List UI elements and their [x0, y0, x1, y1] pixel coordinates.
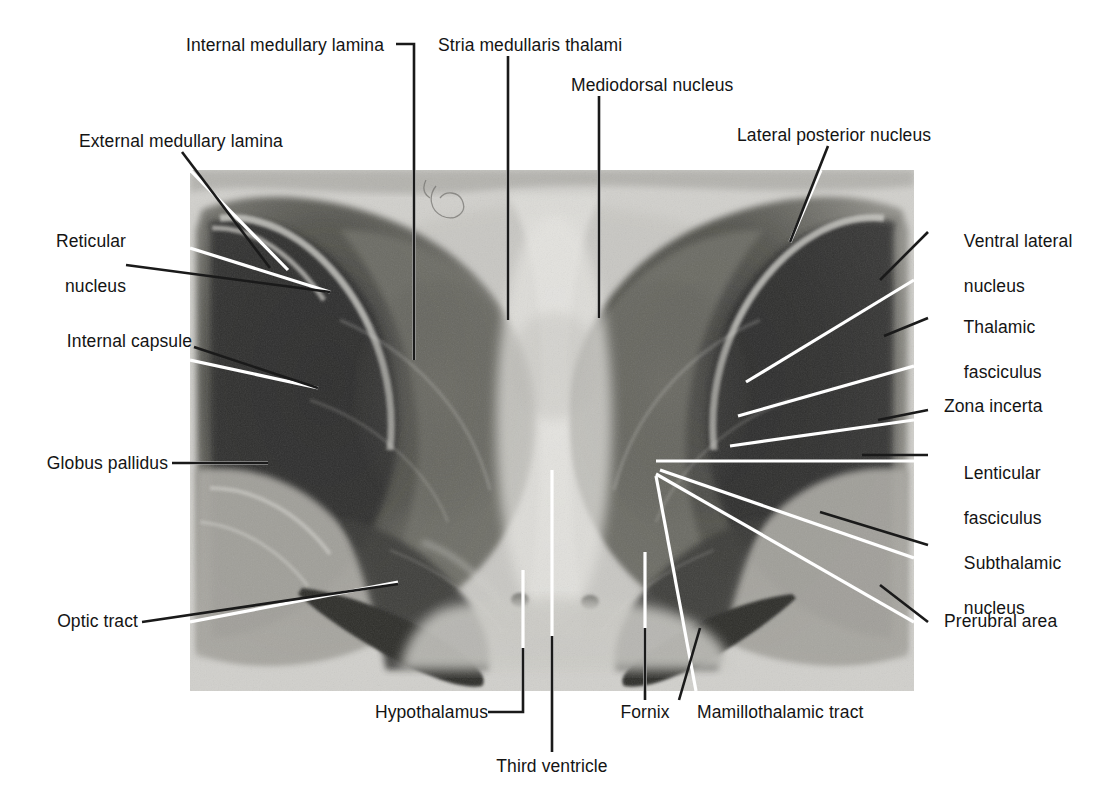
label-hypothalamus: Hypothalamus: [352, 701, 488, 723]
label-fornix: Fornix: [608, 701, 682, 723]
label-zona-incerta: Zona incerta: [944, 395, 1042, 417]
label-thalamic-fasciculus-line2: fasciculus: [964, 362, 1042, 382]
label-internal-capsule: Internal capsule: [0, 330, 192, 352]
label-subthalamic-nucleus-line1: Subthalamic: [964, 553, 1061, 573]
label-internal-medullary-lamina: Internal medullary lamina: [0, 34, 384, 56]
label-globus-pallidus: Globus pallidus: [0, 452, 168, 474]
label-reticular-nucleus-line2: nucleus: [65, 276, 126, 296]
label-prerubral-area: Prerubral area: [944, 610, 1057, 632]
label-mediodorsal-nucleus: Mediodorsal nucleus: [571, 74, 733, 96]
label-lateral-posterior-nucleus: Lateral posterior nucleus: [737, 124, 931, 146]
brain-section-photograph: [190, 170, 914, 691]
label-third-ventricle: Third ventricle: [474, 755, 630, 777]
label-lenticular-fasciculus-line2: fasciculus: [964, 508, 1042, 528]
section-artwork: [190, 170, 914, 691]
label-reticular-nucleus: Reticular nucleus: [0, 208, 126, 320]
anatomical-figure: Internal medullary lamina Stria medullar…: [0, 0, 1104, 807]
label-reticular-nucleus-line1: Reticular: [56, 231, 126, 251]
label-lenticular-fasciculus-line1: Lenticular: [964, 463, 1041, 483]
label-stria-medullaris-thalami: Stria medullaris thalami: [438, 34, 622, 56]
label-ventral-lateral-nucleus-line1: Ventral lateral: [964, 231, 1073, 251]
label-thalamic-fasciculus: Thalamic fasciculus: [944, 294, 1042, 406]
label-external-medullary-lamina: External medullary lamina: [79, 130, 283, 152]
label-thalamic-fasciculus-line1: Thalamic: [964, 317, 1036, 337]
label-mamillothalamic-tract: Mamillothalamic tract: [697, 701, 863, 723]
label-optic-tract: Optic tract: [0, 610, 138, 632]
